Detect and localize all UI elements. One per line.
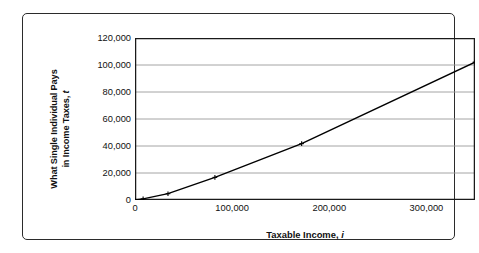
y-axis-tick-label: 100,000 (73, 60, 131, 70)
x-axis-tick-label: 0 (132, 203, 137, 213)
data-point-marker (213, 175, 218, 180)
y-axis-tick-labels: 020,00040,00060,00080,000100,000120,000 (73, 38, 131, 200)
chart-canvas (135, 38, 475, 200)
y-axis-title-line1: What Single Individual Pays (49, 69, 59, 188)
y-axis-tick-label: 40,000 (73, 141, 131, 151)
y-axis-title-variable: t (61, 90, 71, 93)
data-point-markers (135, 60, 475, 200)
gridlines (135, 38, 475, 173)
x-axis-tick-labels: 0100,000200,000300,000 (135, 203, 475, 217)
data-point-marker (166, 191, 171, 196)
y-axis-tick-label: 120,000 (73, 33, 131, 43)
chart-frame: What Single Individual Pays in Income Ta… (22, 13, 455, 240)
x-axis-title: Taxable Income, i (135, 229, 475, 240)
y-axis-title-line2: in Income Taxes, (61, 96, 71, 168)
y-axis-tick-label: 20,000 (73, 168, 131, 178)
data-line-series (135, 62, 475, 200)
x-axis-tick-label: 100,000 (215, 203, 249, 213)
y-axis-tick-label: 60,000 (73, 114, 131, 124)
x-axis-title-text: Taxable Income, (266, 229, 338, 240)
y-axis-tick-label: 80,000 (73, 87, 131, 97)
y-axis-tick-label: 0 (73, 195, 131, 205)
x-axis-title-variable: i (341, 229, 344, 240)
x-axis-tick-label: 300,000 (410, 203, 444, 213)
plot-area (135, 38, 475, 200)
data-point-marker (299, 141, 304, 146)
x-axis-tick-label: 200,000 (312, 203, 346, 213)
